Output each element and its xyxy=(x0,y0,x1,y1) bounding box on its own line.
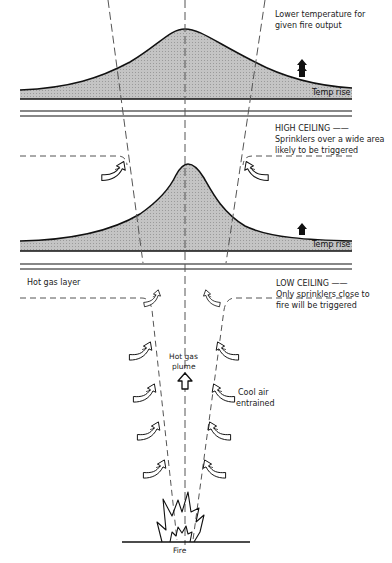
low-ceiling-jet-right xyxy=(193,298,352,540)
entrainment-arrow-icon xyxy=(202,290,222,307)
low-ceiling-desc-line1: Only sprinklers close to xyxy=(276,290,370,300)
entrained-label-line2: entrained xyxy=(236,399,275,409)
entrainment-arrow-icon xyxy=(212,384,234,402)
temp-rise-arrow-icon xyxy=(297,65,307,77)
plume-label-line1: Hot gas xyxy=(169,352,198,362)
fire-label: Fire xyxy=(173,546,186,556)
temp-rise-arrow-icon xyxy=(297,223,307,235)
low-temp-rise-label: Temp rise xyxy=(312,240,350,250)
entrainment-arrow-icon xyxy=(203,460,225,478)
entrainment-arrow-icon xyxy=(216,342,238,360)
high-ceiling-title-text: HIGH CEILING xyxy=(275,124,330,133)
high-ceiling xyxy=(20,111,352,116)
entrainment-arrow-icon xyxy=(133,384,155,402)
entrainment-arrow-icon xyxy=(102,161,125,180)
low-ceiling xyxy=(20,264,352,269)
plume-up-arrow-icon xyxy=(178,373,192,389)
high-ceiling-desc-line1: Sprinklers over a wide area xyxy=(275,135,385,145)
high-ceiling-note-line2: given fire output xyxy=(275,21,342,31)
entrainment-arrow-icon xyxy=(137,422,159,440)
high-ceiling-title: HIGH CEILING —— xyxy=(275,124,349,134)
high-ceiling-note-line1: Lower temperature for xyxy=(275,10,365,20)
high-temp-rise-label: Temp rise xyxy=(312,88,350,98)
low-ceiling-title: LOW CEILING —— xyxy=(276,279,347,289)
entrainment-arrow-icon xyxy=(143,460,165,478)
low-ceiling-jet-left xyxy=(20,298,177,540)
low-ceiling-title-text: LOW CEILING xyxy=(276,279,329,288)
low-ceiling-desc-line2: fire will be triggered xyxy=(276,301,357,311)
entrainment-arrow-icon xyxy=(208,422,230,440)
low-ceiling-temp-profile xyxy=(20,164,352,251)
entrainment-arrow-icon xyxy=(129,342,151,360)
hot-gas-layer-label: Hot gas layer xyxy=(27,278,80,288)
fire-icon xyxy=(157,492,204,542)
high-ceiling-jet-right xyxy=(243,156,352,165)
entrainment-arrow-icon xyxy=(245,161,268,180)
high-ceiling-desc-line2: likely to be triggered xyxy=(275,146,358,156)
entrained-label-line1: Cool air xyxy=(238,388,269,398)
plume-label-line2: plume xyxy=(172,362,196,372)
high-ceiling-jet-left xyxy=(20,156,127,165)
